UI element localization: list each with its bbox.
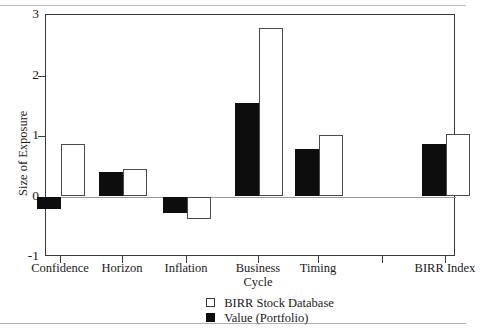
legend-swatch-open-square-icon bbox=[206, 298, 215, 307]
bar-horizon-database bbox=[123, 169, 147, 197]
chart-legend: BIRR Stock Database Value (Portfolio) bbox=[206, 296, 334, 326]
bar-timing-database bbox=[319, 135, 343, 197]
legend-label-1: Value (Portfolio) bbox=[224, 311, 308, 326]
y-tick-mark-2 bbox=[38, 76, 46, 77]
y-tick-label-2: 2 bbox=[32, 68, 39, 82]
legend-label-0: BIRR Stock Database bbox=[224, 296, 334, 311]
bar-series-container bbox=[46, 15, 456, 257]
x-axis-tick-labels: ConfidenceHorizonInflationBusinessCycleT… bbox=[0, 262, 466, 296]
y-axis-title: Size of Exposure bbox=[16, 111, 31, 196]
bar-business-cycle-portfolio bbox=[235, 103, 259, 197]
bar-timing-portfolio bbox=[295, 149, 319, 196]
x-tick-label-line-0: Timing bbox=[248, 262, 388, 276]
legend-swatch-filled-square-icon bbox=[206, 313, 215, 322]
x-tick-label-timing: Timing bbox=[248, 262, 388, 276]
bar-confidence-portfolio bbox=[37, 197, 61, 209]
y-tick-mark-1 bbox=[38, 136, 46, 137]
bar-confidence-database bbox=[61, 144, 85, 196]
bar-birr-index-portfolio bbox=[422, 144, 446, 197]
bar-horizon-portfolio bbox=[99, 172, 123, 196]
y-axis-title-holder: Size of Exposure bbox=[16, 196, 17, 197]
scan-line-top bbox=[0, 5, 466, 6]
y-tick-label-3: 3 bbox=[32, 7, 39, 21]
plot-area bbox=[45, 14, 455, 256]
bar-birr-index-database bbox=[446, 134, 470, 196]
x-tick-label-birr-index: BIRR Index bbox=[375, 262, 480, 276]
bar-inflation-database bbox=[187, 197, 211, 220]
y-tick-label-1: 1 bbox=[32, 128, 39, 142]
bar-business-cycle-database bbox=[259, 28, 283, 197]
legend-item-value-portfolio: Value (Portfolio) bbox=[206, 311, 334, 326]
x-tick-label-line-0: BIRR Index bbox=[375, 262, 480, 276]
x-tick-label-line-1: Cycle bbox=[188, 276, 328, 290]
legend-item-birr-stock-database: BIRR Stock Database bbox=[206, 296, 334, 311]
bar-inflation-portfolio bbox=[163, 197, 187, 214]
